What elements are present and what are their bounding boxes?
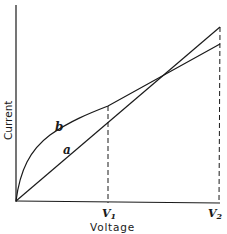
- v1-label: V1: [102, 207, 116, 221]
- y-axis-label: Current: [2, 101, 14, 140]
- v2-marker-line: [219, 27, 220, 203]
- curve-a-label: a: [63, 143, 71, 157]
- x-axis: [16, 201, 220, 203]
- curve-b-label: b: [55, 120, 63, 134]
- curve-b: [16, 44, 220, 201]
- v2-label: V2: [208, 207, 223, 221]
- v2-label-sub: 2: [216, 211, 223, 221]
- v1-label-sub: 1: [111, 211, 117, 221]
- curve-a: [16, 27, 220, 201]
- x-axis-label: Voltage: [90, 221, 135, 233]
- iv-diagram: b a Current V1 V2 Voltage: [0, 0, 227, 234]
